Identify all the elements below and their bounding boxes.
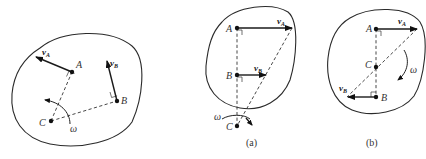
label-a: A: [75, 59, 83, 70]
point-a: [374, 27, 378, 31]
label-va: vA: [277, 16, 285, 27]
point-b: [115, 99, 119, 103]
panel-general: A B C ω vA vB: [12, 33, 142, 145]
dashed-line-velocity-tips: [237, 28, 292, 126]
dashed-line-cb: [51, 101, 117, 121]
instantaneous-center-diagram: A B C ω vA vB A B C ω vA vB (a): [0, 0, 426, 159]
label-vb: vB: [339, 83, 347, 94]
caption-b: (b): [366, 137, 378, 149]
point-c: [49, 119, 53, 123]
panel-b: A C B ω vA vB (b): [328, 9, 426, 149]
point-b: [374, 95, 378, 99]
point-b: [235, 73, 239, 77]
right-angle-a: [237, 30, 242, 35]
label-a: A: [365, 23, 373, 34]
label-vb: vB: [110, 58, 118, 69]
point-a: [235, 26, 239, 30]
label-omega: ω: [410, 64, 417, 75]
label-b: B: [121, 95, 127, 106]
caption-a: (a): [246, 137, 257, 149]
label-omega: ω: [70, 123, 77, 134]
label-omega: ω: [214, 111, 221, 122]
dashed-line-ca: [51, 72, 72, 121]
angular-velocity-arrow: [45, 100, 70, 124]
right-angle-b: [237, 77, 242, 82]
point-c: [235, 124, 239, 128]
velocity-vector-a: [36, 57, 72, 72]
point-c: [374, 65, 378, 69]
panel-a: A B C ω vA vB (a): [206, 7, 296, 149]
dashed-line-velocity-tips: [347, 29, 417, 97]
point-a: [70, 70, 74, 74]
label-c: C: [39, 117, 46, 128]
label-b: B: [381, 92, 387, 103]
label-va: vA: [398, 16, 406, 27]
label-vb: vB: [254, 63, 262, 74]
label-b: B: [226, 70, 232, 81]
right-angle-a: [376, 31, 381, 36]
label-a: A: [225, 23, 233, 34]
label-va: vA: [42, 47, 50, 58]
label-c: C: [365, 59, 372, 70]
angular-velocity-arrow: [398, 50, 407, 80]
angular-velocity-arrowhead: [246, 118, 252, 125]
label-c: C: [226, 121, 233, 132]
